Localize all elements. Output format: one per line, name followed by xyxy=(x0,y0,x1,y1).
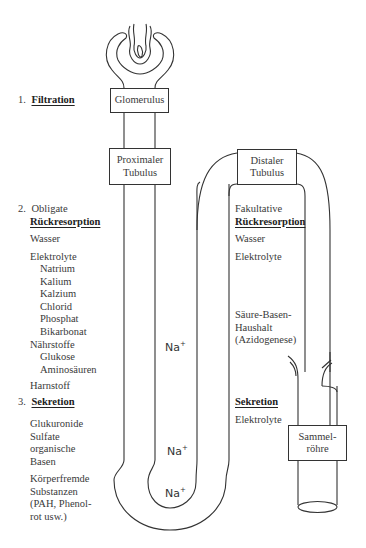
left-naehrstoffe: Nährstoffe xyxy=(30,339,75,352)
nutrient-list: Glukose Aminosäuren xyxy=(40,351,97,376)
electrolyte-list: Natrium Kalium Kalzium Chlorid Phosphat … xyxy=(40,263,87,338)
step3-label: Sekretion xyxy=(32,396,75,407)
right-elektrolyte: Elektrolyte xyxy=(235,251,282,264)
electrolyte-item: Kalzium xyxy=(40,288,87,301)
electrolyte-item: Chlorid xyxy=(40,301,87,314)
electrolyte-item: Phosphat xyxy=(40,313,87,326)
acid-base-line: Haushalt xyxy=(235,322,296,335)
sodium-ion-label: Na+ xyxy=(165,486,186,500)
secretion-item: organische xyxy=(30,443,83,456)
collecting-duct-box: Sammel- röhre xyxy=(288,425,347,461)
glomerulus-label: Glomerulus xyxy=(115,94,165,107)
secretion-item: rot usw.) xyxy=(30,511,91,524)
acid-base-line: (Azidogenese) xyxy=(235,334,296,347)
right-fakultative: Fakultative xyxy=(235,203,305,216)
distal-tubule-box: Distaler Tubulus xyxy=(237,149,297,185)
bowman-capsule-icon xyxy=(106,24,173,88)
step3-number: 3. xyxy=(18,396,26,407)
acid-base-line: Säure-Basen- xyxy=(235,309,296,322)
step-filtration: 1. Filtration xyxy=(18,94,75,107)
proximal-label-line1: Proximaler xyxy=(117,154,164,167)
proximal-tubule-box: Proximaler Tubulus xyxy=(109,148,171,185)
step2-label-line2: Rückresorption xyxy=(30,216,100,229)
right-acid-base: Säure-Basen- Haushalt (Azidogenese) xyxy=(235,309,296,347)
secretion-item: Körperfremde xyxy=(30,473,91,486)
right-wasser: Wasser xyxy=(235,233,265,246)
step-obligate-reabsorption: 2. Obligate Rückresorption xyxy=(18,203,100,228)
nutrient-item: Aminosäuren xyxy=(40,364,97,377)
glomerulus-box: Glomerulus xyxy=(110,88,169,113)
secretion-item: Substanzen xyxy=(30,486,91,499)
secretion-item: Sulfate xyxy=(30,431,83,444)
right-reabsorption-heading: Fakultative Rückresorption xyxy=(235,203,305,228)
secretion-item: (PAH, Phenol- xyxy=(30,498,91,511)
left-harnstoff: Harnstoff xyxy=(30,380,70,393)
nutrient-item: Glukose xyxy=(40,351,97,364)
left-elektrolyte: Elektrolyte xyxy=(30,251,77,264)
secretion-group2: Körperfremde Substanzen (PAH, Phenol- ro… xyxy=(30,473,91,523)
collecting-label-line1: Sammel- xyxy=(299,431,337,444)
secretion-group1: Glukuronide Sulfate organische Basen xyxy=(30,418,83,468)
step1-label: Filtration xyxy=(32,94,75,105)
sodium-ion-label: Na+ xyxy=(165,340,186,354)
secretion-item: Basen xyxy=(30,456,83,469)
step2-label-line1: Obligate xyxy=(32,203,68,214)
distal-label-line1: Distaler xyxy=(250,155,283,168)
right-rueckresorption: Rückresorption xyxy=(235,216,305,229)
secretion-item: Glukuronide xyxy=(30,418,83,431)
right-sekretion: Sekretion xyxy=(235,396,278,409)
step-secretion: 3. Sekretion xyxy=(18,396,74,409)
collecting-label-line2: röhre xyxy=(306,443,328,456)
step2-number: 2. xyxy=(18,203,26,214)
step1-number: 1. xyxy=(18,94,26,105)
right-sekretion-elektrolyte: Elektrolyte xyxy=(235,414,282,427)
electrolyte-item: Kalium xyxy=(40,276,87,289)
electrolyte-item: Bikarbonat xyxy=(40,326,87,339)
distal-label-line2: Tubulus xyxy=(250,167,284,180)
left-wasser: Wasser xyxy=(30,233,60,246)
sodium-ion-label: Na+ xyxy=(167,444,188,458)
electrolyte-item: Natrium xyxy=(40,263,87,276)
proximal-label-line2: Tubulus xyxy=(123,167,157,180)
